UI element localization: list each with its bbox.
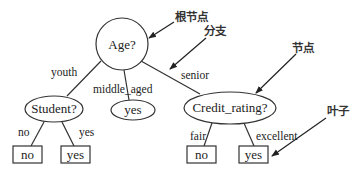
- edge-credit-excellent: [244, 123, 254, 146]
- node-credit: Credit_rating?: [184, 92, 276, 124]
- edge-label-student-yes: yes: [79, 126, 95, 139]
- leaf-student-yes-label: yes: [67, 147, 84, 162]
- edge-label-middle-aged: middle_aged: [93, 83, 153, 96]
- node-root: Age?: [96, 18, 148, 70]
- edge-label-senior: senior: [181, 69, 209, 81]
- edge-label-youth: youth: [51, 66, 77, 79]
- node-credit-label: Credit_rating?: [192, 100, 267, 115]
- node-student-label: Student?: [31, 101, 77, 116]
- edge-label-excellent: excellent: [256, 130, 298, 142]
- annotation-leaf: 叶子: [327, 104, 350, 118]
- annotation-arrow-node: [256, 54, 296, 93]
- leaf-credit-fair: no: [187, 146, 216, 163]
- edge-student-yes: [62, 122, 74, 146]
- node-middle-leaf-label: yes: [124, 102, 141, 117]
- node-middle-leaf: yes: [111, 100, 155, 120]
- annotation-node: 节点: [292, 41, 315, 55]
- edge-label-fair: fair: [190, 130, 206, 142]
- edge-label-student-no: no: [18, 126, 30, 138]
- node-root-label: Age?: [108, 37, 136, 52]
- leaf-credit-excellent-label: yes: [245, 147, 262, 162]
- edge-student-no: [31, 122, 44, 146]
- decision-tree-diagram: Age? Student? yes Credit_rating? no yes …: [0, 0, 357, 173]
- leaf-student-no-label: no: [21, 147, 34, 162]
- leaf-student-yes: yes: [61, 146, 90, 163]
- node-student: Student?: [25, 96, 83, 122]
- annotation-arrow-branch: [170, 38, 206, 69]
- annotation-arrow-root: [149, 22, 174, 38]
- annotation-root-node: 根节点: [175, 10, 209, 24]
- leaf-credit-fair-label: no: [195, 147, 208, 162]
- annotation-branch: 分支: [204, 24, 227, 38]
- leaf-student-no: no: [13, 146, 42, 163]
- leaf-credit-excellent: yes: [239, 146, 268, 163]
